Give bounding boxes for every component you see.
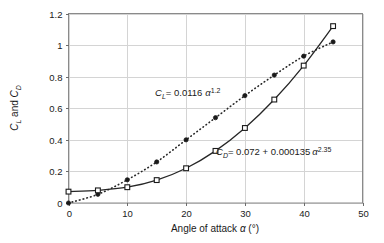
drag-data-point [331, 24, 336, 29]
x-tick-label: 50 [358, 208, 369, 219]
chart-figure: 00.20.40.60.811.2 01020304050 CL= 0.0116… [0, 0, 384, 243]
x-axis-title: Angle of attack α (°) [171, 223, 259, 234]
y-title-conjunction: and [9, 97, 20, 119]
lift-data-point [331, 40, 335, 44]
y-tick-label: 1 [57, 40, 62, 51]
drag-data-point [96, 188, 101, 193]
x-title-suffix: (°) [246, 223, 259, 234]
drag-data-point [66, 189, 71, 194]
drag-data-point [184, 166, 189, 171]
drag-eq-equals: = 0.072 + 0.000135 [228, 146, 310, 157]
x-tick-label: 20 [181, 208, 192, 219]
x-title-prefix: Angle of attack [171, 223, 240, 234]
lift-equation-annotation: CL= 0.0116α1.2 [155, 87, 221, 100]
lift-data-point [302, 54, 306, 58]
x-tick-label: 40 [299, 208, 310, 219]
y-tick-label: 0 [57, 198, 62, 209]
svg-text:Angle of attack α (°): Angle of attack α (°) [171, 223, 259, 234]
x-tick-label: 10 [122, 208, 133, 219]
lift-data-point [272, 73, 276, 77]
lift-eq-equals: = 0.0116 [166, 87, 203, 98]
lift-data-point [125, 178, 129, 182]
drag-data-point [125, 185, 130, 190]
y-tick-label: 0.2 [49, 166, 62, 177]
y-axis-title: CL and CD [9, 85, 22, 131]
lift-eq-exponent: 1.2 [211, 87, 221, 94]
svg-text:CL= 0.0116α1.2: CL= 0.0116α1.2 [155, 87, 221, 100]
lift-data-point [213, 116, 217, 120]
lift-data-point [155, 160, 159, 164]
x-tick-label: 0 [67, 208, 72, 219]
drag-data-point [154, 178, 159, 183]
drag-data-point [243, 126, 248, 131]
drag-eq-exponent: 2.35 [318, 146, 332, 153]
drag-data-point [272, 97, 277, 102]
lift-data-point [184, 138, 188, 142]
y-tick-label: 0.4 [49, 135, 62, 146]
x-tick-label: 30 [240, 208, 251, 219]
drag-data-point [301, 63, 306, 68]
lift-data-point [66, 201, 70, 205]
chart-plot-area: 00.20.40.60.811.2 01020304050 CL= 0.0116… [0, 0, 384, 243]
drag-equation-annotation: CD= 0.072 + 0.000135α2.35 [216, 146, 332, 159]
y-tick-label: 0.6 [49, 103, 62, 114]
y-tick-label: 1.2 [49, 9, 62, 20]
y-tick-label: 0.8 [49, 72, 62, 83]
svg-text:CL and CD: CL and CD [9, 85, 22, 131]
svg-text:CD= 0.072 + 0.000135α2.35: CD= 0.072 + 0.000135α2.35 [216, 146, 332, 159]
lift-data-point [243, 94, 247, 98]
y-title-sub-2: D [15, 85, 22, 90]
